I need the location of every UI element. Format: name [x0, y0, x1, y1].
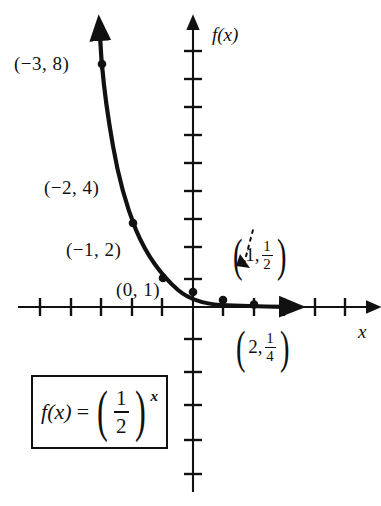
paren-open-one-half: ( — [233, 238, 243, 274]
formula-denominator: 2 — [116, 415, 127, 437]
two-quarter-lead: 2, — [248, 337, 262, 358]
point-label-two-quarter: ( 2, 1 4 ) — [233, 330, 292, 366]
exponential-function-figure: f(x) x (−3, 8) (−2, 4) (−1, 2) (0, 1) ( … — [0, 0, 381, 506]
point-label-neg3: (−3, 8) — [14, 54, 69, 73]
y-axis-label: f(x) — [212, 25, 238, 44]
point-label-one-half: ( 1, 1 2 ) — [230, 238, 289, 274]
paren-close-two-quarter: ) — [279, 330, 289, 366]
formula-base-fraction: 1 2 — [112, 387, 131, 437]
two-quarter-denominator: 4 — [266, 349, 274, 364]
one-half-denominator: 2 — [263, 257, 271, 272]
point-label-zero: (0, 1) — [116, 280, 160, 299]
point-label-neg1: (−1, 2) — [66, 240, 121, 259]
data-point-two — [250, 300, 259, 309]
one-half-numerator: 1 — [263, 239, 271, 254]
data-point-neg2 — [129, 219, 138, 228]
data-point-zero — [189, 288, 198, 297]
fraction-bar — [114, 411, 129, 413]
fraction-one-quarter: 1 4 — [264, 331, 277, 365]
formula-function-name: f(x) — [41, 399, 72, 425]
fraction-one-half: 1 2 — [261, 239, 274, 273]
formula-paren-close: ) — [135, 392, 146, 431]
formula-box: f(x) = ( 1 2 ) x — [31, 375, 168, 449]
paren-close-one-half: ) — [276, 238, 286, 274]
data-point-neg3 — [98, 60, 107, 69]
formula-expression: f(x) = ( 1 2 ) x — [41, 387, 158, 437]
formula-exponent: x — [150, 388, 158, 405]
x-axis-label: x — [358, 322, 366, 341]
two-quarter-numerator: 1 — [266, 331, 274, 346]
formula-numerator: 1 — [116, 387, 127, 409]
paren-open-two-quarter: ( — [236, 330, 246, 366]
formula-equals-sign: = — [77, 399, 89, 425]
one-half-lead: 1, — [245, 245, 259, 266]
data-point-one — [219, 296, 228, 305]
formula-paren-open: ( — [97, 392, 108, 431]
point-label-neg2: (−2, 4) — [44, 178, 99, 197]
